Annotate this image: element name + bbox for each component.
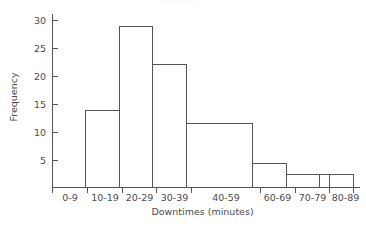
ytick-label-10: 10 <box>24 128 46 138</box>
histogram-figure: ........ .. <box>0 0 366 229</box>
ytick-label-15: 15 <box>24 100 46 110</box>
bar-0-9 <box>86 111 119 188</box>
xtick-label-30-39: 30-39 <box>152 192 197 203</box>
xtick-label-80-89: 80-89 <box>323 192 366 203</box>
plot-area: 30 25 20 15 10 5 0-9 10-19 20-29 30-39 4… <box>0 0 366 229</box>
bar-40-59 <box>253 164 286 188</box>
ytick-label-30: 30 <box>24 16 46 26</box>
ytick-label-5: 5 <box>24 156 46 166</box>
bar-group <box>86 26 353 187</box>
ytick-label-20: 20 <box>24 72 46 82</box>
bar-30-39 <box>186 123 253 187</box>
bar-10-19 <box>119 26 152 187</box>
x-axis-label: Downtimes (minutes) <box>52 207 353 217</box>
xtick-label-40-59: 40-59 <box>203 192 249 203</box>
ytick-label-25: 25 <box>24 44 46 54</box>
bar-20-29 <box>153 64 186 187</box>
y-axis-label: Frequency <box>9 62 19 132</box>
bar-80-89 <box>330 175 353 188</box>
bar-60-69 <box>286 175 319 188</box>
